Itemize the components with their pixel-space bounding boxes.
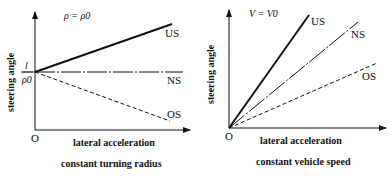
y-axis-label: steering angle bbox=[205, 44, 216, 104]
x-axis-label: lateral acceleration bbox=[73, 137, 155, 148]
os-label: OS bbox=[362, 70, 376, 82]
x-axis-label: lateral acceleration bbox=[260, 135, 342, 146]
intercept-denominator: ρ0 bbox=[21, 74, 32, 85]
chart-constant-turning-radius: ρ = ρ0 US NS OS l ρ0 O steering angle la… bbox=[5, 10, 190, 169]
chart-caption: constant vehicle speed bbox=[256, 156, 351, 167]
intercept-numerator: l bbox=[25, 60, 28, 71]
chart-constant-vehicle-speed: V = V0 US NS OS O steering angle lateral… bbox=[205, 8, 386, 167]
us-label: US bbox=[165, 27, 179, 39]
ns-label: NS bbox=[167, 74, 181, 86]
y-axis-label: steering angle bbox=[5, 52, 16, 112]
condition-label: V = V0 bbox=[249, 8, 278, 19]
condition-label: ρ = ρ0 bbox=[63, 10, 90, 21]
origin-label: O bbox=[31, 132, 39, 144]
origin-label: O bbox=[225, 130, 233, 142]
chart-caption: constant turning radius bbox=[61, 158, 162, 169]
ns-label: NS bbox=[351, 28, 365, 40]
us-line bbox=[35, 24, 172, 72]
os-line bbox=[35, 72, 170, 121]
figure: ρ = ρ0 US NS OS l ρ0 O steering angle la… bbox=[0, 0, 391, 179]
us-label: US bbox=[311, 15, 325, 27]
os-label: OS bbox=[167, 108, 181, 120]
